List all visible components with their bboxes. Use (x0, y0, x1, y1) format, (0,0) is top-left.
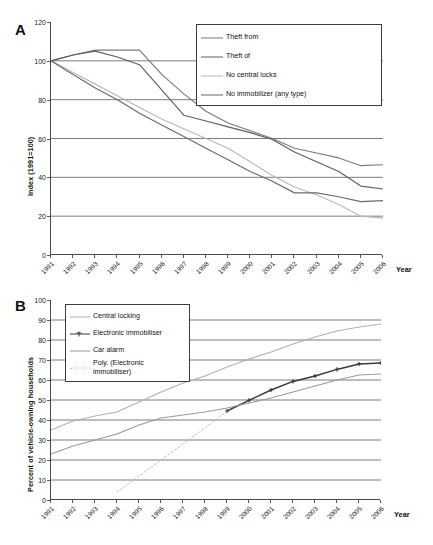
x-tick-label: 1997 (166, 260, 188, 282)
legend-item[interactable]: Theft from (201, 28, 377, 47)
x-tick-mark (316, 255, 317, 258)
x-tick-mark (205, 255, 206, 258)
series-marker (379, 361, 381, 365)
legend-swatch (70, 325, 90, 342)
x-tick-label: 1995 (122, 260, 144, 282)
x-tick-label: 2003 (299, 260, 321, 282)
y-tick-mark (47, 139, 50, 140)
x-tick-label: 1998 (188, 260, 210, 282)
x-tick-label: 2001 (253, 505, 275, 527)
x-tick-mark (72, 255, 73, 258)
y-tick-mark (47, 100, 50, 101)
y-tick-mark (47, 61, 50, 62)
series-marker (357, 362, 361, 366)
x-tick-mark (116, 500, 117, 503)
legend-label: Theft of (226, 52, 250, 60)
y-tick-label: 90 (24, 317, 46, 324)
legend-swatch (201, 47, 223, 66)
x-tick-mark (292, 500, 293, 503)
x-tick-label: 2002 (275, 505, 297, 527)
x-tick-mark (116, 255, 117, 258)
x-tick-label: 2005 (343, 260, 365, 282)
panel-b: B Percent of vehicle-owning households 0… (0, 288, 433, 545)
y-tick-mark (47, 420, 50, 421)
x-tick-mark (293, 255, 294, 258)
legend-item[interactable]: No immobilizer (any type) (201, 85, 377, 104)
legend-marker-icon (77, 331, 82, 336)
x-tick-label: 2001 (254, 260, 276, 282)
y-tick-mark (47, 380, 50, 381)
x-tick-mark (314, 500, 315, 503)
x-tick-mark (249, 255, 250, 258)
y-tick-label: 20 (24, 213, 46, 220)
y-tick-mark (47, 177, 50, 178)
y-tick-mark (47, 360, 50, 361)
figure-root: A Index (1991=100) 020406080100120 19911… (0, 0, 433, 545)
y-tick-mark (47, 22, 50, 23)
x-tick-label: 1992 (55, 505, 77, 527)
legend-label: No immobilizer (any type) (226, 90, 306, 98)
legend-swatch (70, 359, 90, 376)
x-tick-mark (248, 500, 249, 503)
x-tick-label: 2002 (276, 260, 298, 282)
y-tick-label: 30 (24, 437, 46, 444)
legend-swatch (70, 308, 90, 325)
y-tick-mark (47, 460, 50, 461)
series-line (51, 374, 381, 454)
x-tick-label: 2000 (231, 505, 253, 527)
x-tick-label: 2006 (365, 260, 387, 282)
legend-swatch (201, 85, 223, 104)
legend-item[interactable]: Electronic immobiliser (70, 325, 185, 342)
series-line (227, 363, 381, 411)
y-tick-label: 120 (24, 19, 46, 26)
x-tick-mark (382, 255, 383, 258)
legend-label: Car alarm (93, 346, 124, 354)
x-tick-label: 1993 (77, 260, 99, 282)
x-tick-label: 1991 (33, 260, 55, 282)
x-tick-mark (72, 500, 73, 503)
x-tick-mark (358, 500, 359, 503)
legend-item[interactable]: Poly. (Electronic immobiliser) (70, 359, 185, 376)
y-tick-mark (47, 480, 50, 481)
x-tick-mark (50, 255, 51, 258)
x-tick-mark (270, 500, 271, 503)
legend-item[interactable]: Car alarm (70, 342, 185, 359)
series-marker (313, 374, 317, 378)
x-tick-label: 1994 (99, 260, 121, 282)
legend-label: Central locking (93, 312, 140, 320)
legend-item[interactable]: Central locking (70, 308, 185, 325)
legend-swatch (201, 28, 223, 47)
legend-item[interactable]: No central locks (201, 66, 377, 85)
x-tick-label: 1996 (144, 260, 166, 282)
y-tick-label: 10 (24, 477, 46, 484)
legend-swatch (70, 342, 90, 359)
y-tick-label: 80 (24, 337, 46, 344)
legend-label: Theft from (226, 33, 258, 41)
panel-a-y-axis-label: Index (1991=100) (26, 137, 35, 196)
legend-swatch (201, 66, 223, 85)
legend-item[interactable]: Theft of (201, 47, 377, 66)
x-tick-label: 2003 (297, 505, 319, 527)
x-tick-label: 1991 (33, 505, 55, 527)
y-tick-mark (47, 340, 50, 341)
panel-a-x-axis-label: Year (396, 265, 412, 274)
x-tick-label: 1993 (77, 505, 99, 527)
y-tick-mark (47, 216, 50, 217)
panel-a-legend: Theft fromTheft ofNo central locksNo imm… (196, 24, 382, 106)
y-tick-label: 100 (24, 57, 46, 64)
x-tick-mark (183, 255, 184, 258)
x-tick-label: 2000 (232, 260, 254, 282)
x-tick-mark (50, 500, 51, 503)
y-tick-mark (47, 440, 50, 441)
x-tick-label: 1997 (165, 505, 187, 527)
x-tick-mark (204, 500, 205, 503)
y-tick-label: 100 (24, 297, 46, 304)
y-tick-label: 0 (24, 252, 46, 259)
x-tick-mark (94, 500, 95, 503)
x-tick-mark (161, 255, 162, 258)
y-tick-label: 70 (24, 357, 46, 364)
x-tick-label: 1998 (187, 505, 209, 527)
x-tick-mark (271, 255, 272, 258)
legend-label: Electronic immobiliser (93, 329, 162, 337)
y-tick-label: 40 (24, 174, 46, 181)
